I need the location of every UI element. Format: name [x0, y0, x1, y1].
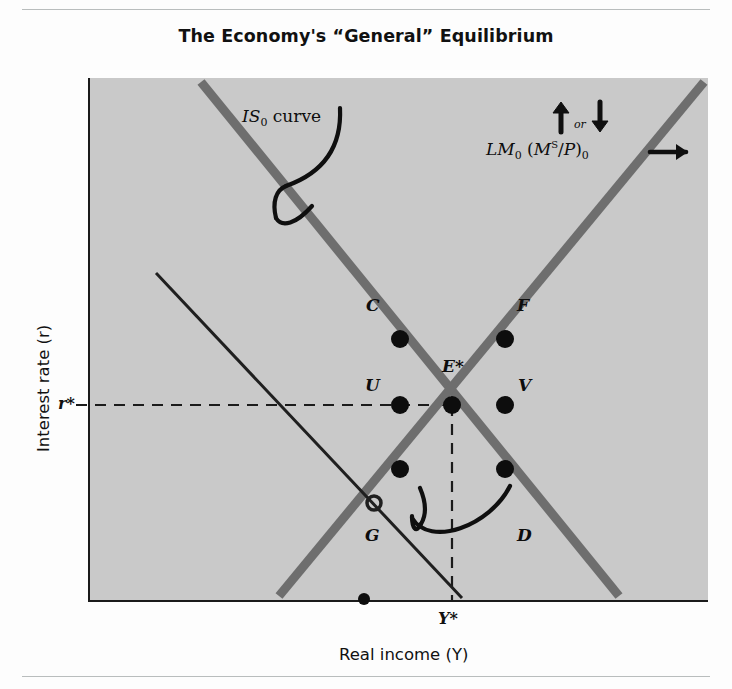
x-axis-title: Real income (Y) [339, 645, 468, 664]
x-axis-small-dot [358, 593, 370, 605]
point-label-U: U [365, 375, 380, 395]
point-dot-G [391, 460, 409, 478]
point-dot-E [443, 396, 461, 414]
plot-area: IS0 curve LM0 (MS/P)0 or C F E* U V G D [88, 78, 708, 602]
y-axis-tick-label-rstar: r* [58, 394, 75, 413]
y-axis-title: Interest rate (r) [34, 325, 53, 452]
point-dot-D [496, 460, 514, 478]
svg-text:or: or [574, 118, 587, 131]
figure-title: The Economy's “General” Equilibrium [0, 26, 732, 46]
point-label-C: C [366, 295, 380, 315]
figure-page: The Economy's “General” Equilibrium Inte… [0, 0, 732, 689]
y-axis-title-text: Interest rate (r) [34, 325, 53, 452]
point-dot-F [496, 330, 514, 348]
shift-arrow-lower-icon [412, 486, 510, 532]
point-label-E-star: E* [442, 356, 464, 376]
lm0-curve-label: LM0 (MS/P)0 [486, 139, 589, 162]
money-supply-up-or-down-annotation: or [548, 100, 612, 134]
top-divider-rule [22, 9, 710, 10]
point-label-D: D [517, 525, 532, 545]
plot-graphics [90, 78, 708, 600]
x-axis-title-text: Real income (Y) [339, 645, 468, 664]
point-dot-V [496, 396, 514, 414]
point-dot-U [391, 396, 409, 414]
point-label-V: V [518, 375, 531, 395]
x-axis-tick-label-ystar: Y* [438, 609, 458, 628]
is0-curve-label: IS0 curve [242, 106, 321, 129]
point-label-F: F [517, 295, 529, 315]
point-dot-C [391, 330, 409, 348]
point-label-G: G [365, 525, 380, 545]
bottom-divider-rule [22, 676, 710, 677]
